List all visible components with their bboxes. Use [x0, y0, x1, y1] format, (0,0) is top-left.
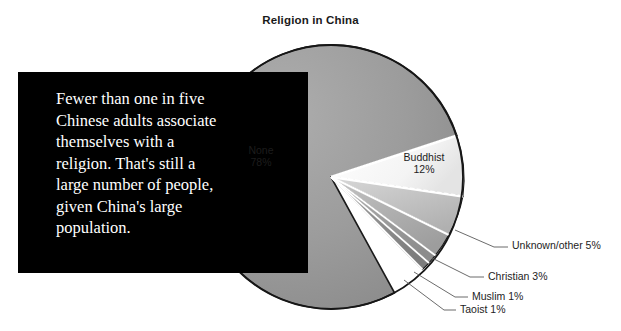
slice-label-none: None 78% — [219, 144, 303, 168]
leader-line-christian — [432, 258, 484, 277]
slice-label-buddhist-pct: 12% — [381, 163, 467, 175]
leader-label-unknown: Unknown/other 5% — [512, 239, 601, 251]
leader-line-unknown — [455, 230, 508, 247]
leader-line-taoist — [404, 280, 456, 310]
leader-label-christian: Christian 3% — [488, 270, 548, 282]
slice-label-buddhist-name: Buddhist — [404, 151, 445, 163]
slice-label-none-name: None — [248, 144, 273, 156]
chart-page: Religion in China Fewer than one in five… — [0, 0, 621, 331]
leader-label-muslim: Muslim 1% — [472, 290, 523, 302]
slice-label-none-pct: 78% — [219, 156, 303, 168]
leader-label-taoist: Taoist 1% — [460, 303, 506, 315]
slice-label-buddhist: Buddhist 12% — [381, 151, 467, 175]
